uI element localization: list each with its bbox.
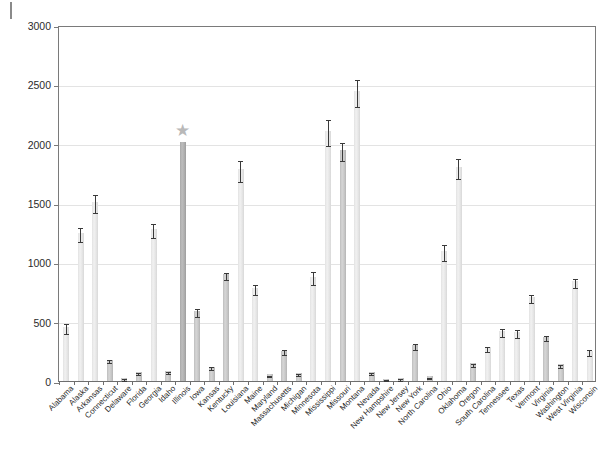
error-bar-cap-lower bbox=[209, 370, 214, 371]
error-bar-cap-upper bbox=[209, 367, 214, 368]
y-axis-tick bbox=[54, 86, 59, 87]
error-bar bbox=[153, 224, 154, 238]
error-bar-cap-lower bbox=[369, 375, 374, 376]
error-bar-cap-lower bbox=[195, 317, 200, 318]
error-bar bbox=[313, 272, 314, 285]
error-bar bbox=[80, 228, 81, 242]
error-bar-cap-lower bbox=[413, 350, 418, 351]
error-bar-cap-lower bbox=[122, 381, 127, 382]
error-bar-cap-upper bbox=[471, 364, 476, 365]
star-marker-icon: ★ bbox=[175, 122, 190, 139]
error-bar-cap-lower bbox=[151, 238, 156, 239]
y-axis-tick-label: 500 bbox=[7, 317, 51, 329]
error-bar-cap-upper bbox=[558, 365, 563, 366]
error-bar-cap-lower bbox=[573, 288, 578, 289]
error-bar bbox=[458, 159, 459, 179]
error-bar-cap-lower bbox=[340, 161, 345, 162]
y-axis-tick-label: 1000 bbox=[7, 257, 51, 269]
bar-texas bbox=[514, 332, 520, 381]
error-bar-cap-lower bbox=[398, 381, 403, 382]
error-bar-cap-lower bbox=[355, 107, 360, 108]
error-bar-cap-lower bbox=[427, 379, 432, 380]
bar-arkansas bbox=[92, 202, 98, 381]
error-bar-cap-upper bbox=[282, 350, 287, 351]
chart-figure: 050010001500200025003000Average river ot… bbox=[0, 0, 607, 456]
error-bar-cap-lower bbox=[456, 179, 461, 180]
bar-minnesota bbox=[310, 277, 316, 381]
bar-illinois bbox=[180, 142, 186, 381]
error-bar-cap-lower bbox=[93, 213, 98, 214]
error-bar-cap-lower bbox=[107, 363, 112, 364]
error-bar-cap-upper bbox=[500, 329, 505, 330]
error-bar-cap-upper bbox=[64, 324, 69, 325]
error-bar bbox=[575, 279, 576, 288]
gridline bbox=[59, 86, 595, 87]
error-bar-cap-upper bbox=[587, 350, 592, 351]
error-bar-cap-upper bbox=[413, 344, 418, 345]
error-bar-cap-upper bbox=[326, 120, 331, 121]
error-bar-cap-upper bbox=[253, 285, 258, 286]
error-bar-cap-lower bbox=[326, 146, 331, 147]
plot-area: 050010001500200025003000Average river ot… bbox=[58, 26, 596, 382]
error-bar-cap-lower bbox=[529, 303, 534, 304]
y-axis-tick bbox=[54, 264, 59, 265]
bar-iowa bbox=[194, 311, 200, 381]
error-bar-cap-upper bbox=[355, 80, 360, 81]
error-bar-cap-lower bbox=[166, 374, 171, 375]
error-bar-cap-upper bbox=[238, 161, 243, 162]
error-bar-cap-lower bbox=[311, 285, 316, 286]
error-bar bbox=[66, 324, 67, 335]
error-bar-cap-lower bbox=[515, 338, 520, 339]
error-bar bbox=[255, 285, 256, 294]
bar-georgia bbox=[151, 229, 157, 381]
error-bar-cap-lower bbox=[442, 261, 447, 262]
error-bar bbox=[502, 329, 503, 337]
y-axis-tick bbox=[54, 323, 59, 324]
y-axis-tick-label: 2000 bbox=[7, 139, 51, 151]
y-axis-tick bbox=[54, 205, 59, 206]
x-axis-category-labels: AlabamaAlaskaArkansasConnecticutDelaware… bbox=[58, 384, 596, 456]
error-bar bbox=[240, 161, 241, 182]
error-bar-cap-upper bbox=[515, 330, 520, 331]
error-bar-cap-upper bbox=[456, 159, 461, 160]
error-bar bbox=[328, 120, 329, 146]
error-bar-cap-upper bbox=[195, 309, 200, 310]
error-bar bbox=[342, 143, 343, 161]
error-bar-cap-upper bbox=[224, 273, 229, 274]
error-bar-cap-lower bbox=[296, 376, 301, 377]
bar-kentucky bbox=[223, 274, 229, 381]
error-bar-cap-upper bbox=[151, 224, 156, 225]
error-bar-cap-lower bbox=[485, 352, 490, 353]
y-axis-tick-label: 0 bbox=[7, 376, 51, 388]
error-bar bbox=[95, 195, 96, 213]
error-bar-cap-lower bbox=[384, 381, 389, 382]
bar-alaska bbox=[78, 233, 84, 381]
bar-louisiana bbox=[238, 169, 244, 381]
error-bar-cap-upper bbox=[107, 360, 112, 361]
y-axis-tick bbox=[54, 27, 59, 28]
error-bar-cap-lower bbox=[558, 368, 563, 369]
error-bar-cap-lower bbox=[238, 182, 243, 183]
page-edge-artifact bbox=[10, 2, 12, 19]
bar-oklahoma bbox=[456, 167, 462, 381]
error-bar-cap-upper bbox=[93, 195, 98, 196]
error-bar-cap-lower bbox=[500, 337, 505, 338]
error-bar bbox=[197, 309, 198, 317]
y-axis-tick-label: 2500 bbox=[7, 79, 51, 91]
error-bar-cap-upper bbox=[442, 245, 447, 246]
error-bar-cap-upper bbox=[340, 143, 345, 144]
error-bar-cap-upper bbox=[136, 373, 141, 374]
bar-missouri bbox=[340, 150, 346, 381]
error-bar bbox=[531, 295, 532, 303]
error-bar-cap-upper bbox=[311, 272, 316, 273]
error-bar-cap-lower bbox=[136, 375, 141, 376]
error-bar-cap-lower bbox=[267, 377, 272, 378]
error-bar bbox=[357, 80, 358, 107]
error-bar-cap-lower bbox=[224, 280, 229, 281]
error-bar-cap-upper bbox=[573, 279, 578, 280]
bar-mississippi bbox=[325, 131, 331, 381]
error-bar-cap-lower bbox=[587, 356, 592, 357]
error-bar bbox=[444, 245, 445, 262]
error-bar-cap-lower bbox=[64, 334, 69, 335]
error-bar-cap-upper bbox=[544, 336, 549, 337]
